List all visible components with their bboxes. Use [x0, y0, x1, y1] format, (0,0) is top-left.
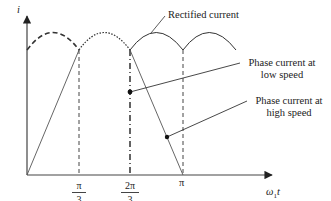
rectified-leader — [151, 16, 165, 33]
low-speed-label-line1: Phase current at — [242, 57, 322, 69]
x-axis-label: ω1t — [266, 186, 280, 201]
tick-pi-over-3: π 3 — [71, 180, 87, 201]
rectified-arc-1 — [27, 33, 79, 51]
high-speed-label-line2: high speed — [249, 107, 329, 119]
rectified-current-label: Rectified current — [168, 9, 239, 21]
tick-2pi-over-3-num: 2π — [120, 180, 140, 191]
high-speed-decline — [130, 50, 183, 175]
rectified-arc-2 — [79, 33, 130, 51]
high-speed-marker — [165, 135, 169, 139]
low-speed-label: Phase current at low speed — [242, 57, 322, 81]
low-speed-leader — [130, 63, 240, 92]
low-speed-label-line2: low speed — [242, 69, 322, 81]
tick-pi: π — [179, 177, 184, 189]
high-speed-label-line1: Phase current at — [249, 95, 329, 107]
high-speed-label: Phase current at high speed — [249, 95, 329, 119]
fraction-bar — [121, 192, 139, 193]
fraction-bar — [72, 192, 86, 193]
rectified-arc-4 — [183, 33, 236, 51]
x-axis-label-t: t — [277, 186, 280, 197]
tick-2pi-over-3: 2π 3 — [120, 180, 140, 201]
y-axis-label: i — [17, 4, 20, 16]
high-speed-leader — [167, 101, 247, 137]
tick-pi-over-3-num: π — [71, 180, 87, 191]
rectified-arc-3 — [130, 33, 183, 51]
tick-pi-over-3-den: 3 — [71, 194, 87, 201]
low-speed-marker — [128, 90, 133, 95]
low-speed-ramp — [27, 50, 79, 175]
tick-2pi-over-3-den: 3 — [120, 194, 140, 201]
